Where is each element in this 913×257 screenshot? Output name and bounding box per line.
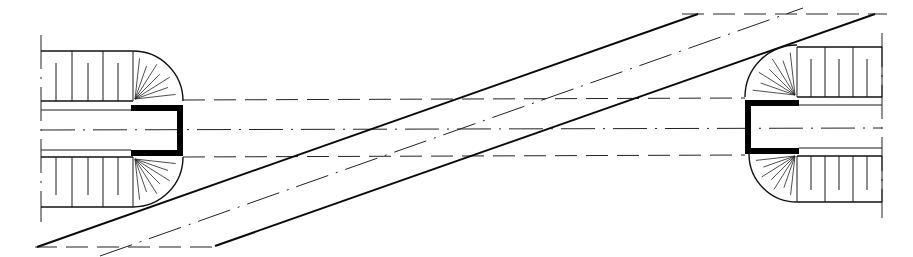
upper-dashed-guide [183,98,745,100]
left-top-stair [41,51,133,101]
ramp-centerline [100,8,803,256]
wall-top [131,105,183,111]
ramp-plan-drawing [0,0,913,257]
right-bottom-stair [797,156,882,202]
fan-tread [771,156,795,180]
wall-side [177,105,183,156]
left-bottom-stair [41,157,133,207]
left-landing-stairs [41,35,183,222]
fan-tread [769,69,795,95]
lower-dashed-guide [183,155,745,157]
fan-tread [135,159,160,184]
wall-bottom [131,150,183,156]
ramp-upper-edge [37,14,698,247]
right-top-stair [797,47,882,97]
wall-side [745,100,751,154]
guide-lines [35,14,887,247]
wall-bottom [745,148,799,154]
wall-top [745,100,799,106]
fan-tread [135,74,160,99]
right-landing-stairs [745,33,882,218]
